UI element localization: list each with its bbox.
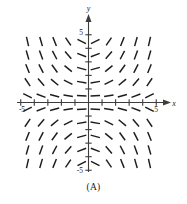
slope-segment (104, 109, 113, 111)
figure-caption: (A) (0, 182, 187, 192)
slope-segment (26, 159, 28, 168)
slope-segment (38, 119, 44, 126)
slope-segment (52, 51, 56, 59)
slope-segment (91, 39, 100, 43)
slope-segment (26, 132, 30, 141)
slope-segment (51, 120, 58, 126)
slope-segment (77, 67, 86, 70)
slope-segment (134, 64, 138, 72)
y-axis-tick-label-5: 5 (79, 28, 83, 37)
slope-segment (118, 94, 127, 97)
slope-segment (65, 51, 71, 58)
slope-segment (148, 64, 152, 73)
slope-segment (135, 37, 138, 46)
slope-segment (40, 159, 43, 168)
slope-segment (39, 132, 43, 140)
slope-segment (91, 161, 100, 165)
slope-segment (39, 64, 43, 72)
y-axis-tick-label-neg5: -5 (77, 166, 83, 175)
x-axis-label: x (171, 99, 176, 108)
slope-segment (120, 133, 126, 141)
slope-segment (65, 146, 71, 153)
slope-segment (148, 132, 152, 141)
slope-segment (133, 79, 139, 86)
slope-segment (134, 145, 137, 154)
slope-segment (77, 148, 86, 151)
slope-segment (50, 108, 59, 111)
slope-segment (77, 161, 86, 165)
slope-segment (121, 37, 125, 46)
slope-segment (106, 51, 112, 58)
y-axis-label: y (86, 4, 91, 13)
slope-segment (105, 133, 112, 139)
slope-segment (145, 107, 154, 111)
slope-segment (50, 94, 59, 97)
slope-segment (131, 108, 140, 111)
slope-segment (77, 53, 86, 56)
slope-segment (120, 146, 124, 154)
slope-segment (106, 38, 111, 46)
slope-segment (120, 65, 126, 73)
slope-segment (105, 80, 114, 84)
slope-segment (66, 38, 71, 46)
slope-segment (77, 135, 86, 138)
slope-segment (52, 65, 58, 73)
slope-segment (65, 133, 72, 139)
slope-segment (26, 37, 28, 46)
slope-segment (91, 135, 100, 138)
slope-segment (77, 95, 86, 96)
slope-segment (147, 119, 152, 127)
slope-segment (119, 79, 126, 85)
slope-segment (63, 95, 72, 97)
slope-segment (134, 51, 137, 60)
slope-segment (91, 95, 100, 96)
slope-segment (37, 94, 46, 97)
slope-segment (91, 67, 100, 70)
x-axis-tick-label-neg5: -5 (19, 105, 25, 114)
slope-segment (91, 122, 100, 124)
slope-segment (104, 95, 113, 97)
slope-segment (26, 145, 29, 154)
slope-segment (147, 78, 152, 86)
slope-segment (105, 66, 112, 72)
slope-segment (134, 132, 138, 140)
slope-segment (63, 109, 72, 111)
slope-segment (106, 146, 112, 153)
slope-segment (119, 120, 126, 126)
slope-segment (121, 159, 125, 168)
slope-segment (23, 94, 32, 98)
slope-segment (91, 109, 100, 110)
slope-segment (26, 51, 29, 60)
slope-segment (77, 39, 86, 43)
slope-segment (40, 37, 43, 46)
slope-segment (65, 66, 72, 72)
slope-segment (148, 37, 150, 46)
slope-segment (135, 159, 138, 168)
y-axis-arrow-icon (86, 14, 92, 22)
slope-segment (148, 51, 151, 60)
slope-segment (64, 80, 73, 84)
slope-segment (91, 53, 100, 56)
slope-segment (148, 145, 151, 154)
slope-segment (77, 122, 86, 124)
x-axis-arrow-icon (163, 100, 171, 106)
slope-segment (52, 133, 58, 141)
slope-segment (148, 159, 150, 168)
slope-segment (145, 94, 154, 98)
slope-segment (25, 119, 30, 127)
slope-segment (38, 79, 44, 86)
slope-segment (133, 119, 139, 126)
slope-segment (53, 159, 57, 168)
slope-segment (25, 78, 30, 86)
slope-segment (118, 108, 127, 111)
slope-segment (53, 37, 57, 46)
slope-segment (37, 108, 46, 111)
slope-segment (51, 79, 58, 85)
slope-segment (91, 148, 100, 151)
x-axis-tick-label-5: 5 (154, 105, 158, 114)
slope-segment (77, 109, 86, 110)
slope-segment (106, 160, 111, 168)
slope-segment (77, 81, 86, 83)
slope-field-figure: x y 5 -5 5 -5 (A) (0, 0, 187, 204)
slope-segment (64, 121, 73, 125)
